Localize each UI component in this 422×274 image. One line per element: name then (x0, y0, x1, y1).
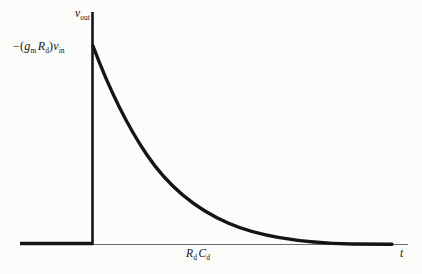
peak-minus-sign: − (13, 39, 20, 53)
y-axis-label-subscript: out (80, 13, 90, 22)
y-axis-label: vout (75, 8, 90, 20)
tau-rd-subscript: d (193, 253, 197, 262)
peak-value-label: −(gmRd)vin (13, 40, 65, 52)
figure-container: vout −(gmRd)vin RdCd t (0, 0, 422, 274)
x-axis-label: t (400, 248, 403, 260)
peak-gm-subscript: m (30, 46, 36, 55)
x-axis-label-base: t (400, 247, 403, 259)
peak-vin-subscript: in (59, 46, 65, 55)
peak-vin-base: v (53, 39, 59, 53)
time-constant-label: RdCd (186, 248, 210, 260)
initial-slope-tangent-line (94, 47, 205, 244)
exponential-decay-curve (93, 46, 392, 244)
tau-cd-subscript: d (206, 253, 210, 262)
peak-rd-subscript: d (45, 46, 49, 55)
